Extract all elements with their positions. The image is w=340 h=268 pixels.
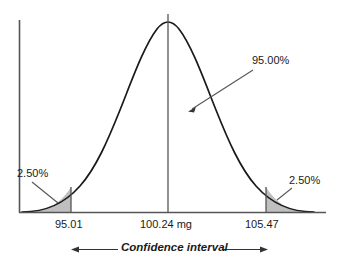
normal-distribution-figure: 95.00% 2.50% 2.50% 95.01 100.24 mg 105.4… — [0, 0, 340, 268]
confidence-interval-caption: Confidence interval — [121, 241, 228, 253]
center-area-percent-label: 95.00% — [252, 54, 289, 66]
x-axis-tick-label-lower: 95.01 — [55, 218, 83, 230]
upper-tail-leader-line — [277, 188, 292, 200]
lower-tail-percent-label: 2.50% — [17, 167, 48, 179]
x-axis-tick-label-center: 100.24 mg — [140, 218, 192, 230]
center-area-leader-arrow — [188, 70, 253, 113]
upper-tail-percent-label: 2.50% — [289, 174, 320, 186]
lower-tail-leader-line — [32, 182, 58, 203]
x-axis-tick-label-upper: 105.47 — [245, 218, 279, 230]
